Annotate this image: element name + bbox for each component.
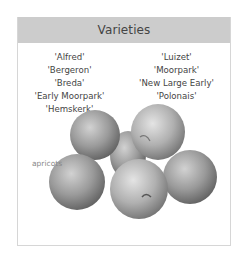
- varieties-panel: Varieties 'Alfred' 'Bergeron' 'Breda' 'E…: [17, 17, 231, 246]
- image-caption: apricots: [32, 159, 62, 168]
- apricots-image: [18, 17, 232, 246]
